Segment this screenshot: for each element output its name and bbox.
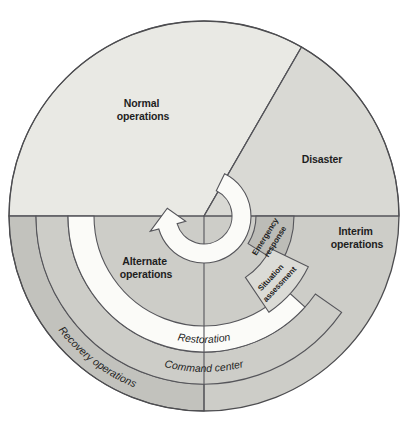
label-normal-line2: operations — [117, 110, 170, 122]
label-disaster-line1: Disaster — [302, 153, 343, 165]
label-normal-line1: Normal — [124, 97, 160, 109]
label-alternate-line2: operations — [120, 268, 173, 280]
label-normal-operations: Normal operations — [117, 97, 170, 122]
disaster-recovery-cycle-diagram: Normal operations Disaster Interim opera… — [0, 0, 408, 424]
label-interim-line1: Interim — [338, 225, 372, 237]
label-disaster: Disaster — [302, 153, 343, 165]
label-interim-line2: operations — [331, 238, 384, 250]
label-alternate-operations: Alternate operations — [120, 255, 173, 280]
label-alternate-line1: Alternate — [122, 255, 167, 267]
